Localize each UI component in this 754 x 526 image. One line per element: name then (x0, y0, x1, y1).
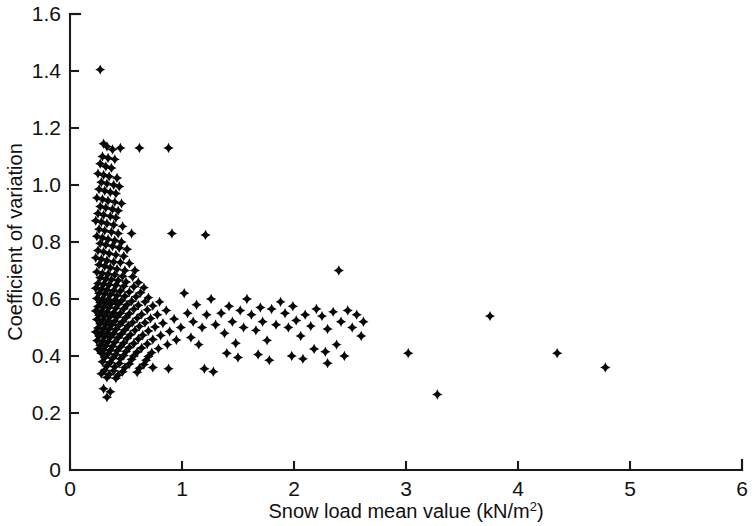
data-point (108, 220, 118, 230)
data-point (296, 331, 306, 341)
data-point (264, 355, 274, 365)
y-tick-label: 1.2 (32, 116, 61, 139)
data-point (322, 358, 332, 368)
y-tick-label: 0 (49, 458, 61, 481)
data-point (169, 314, 179, 324)
data-point (280, 308, 290, 318)
data-point (238, 322, 248, 332)
data-point (130, 265, 140, 275)
data-point (104, 171, 114, 181)
data-point (233, 352, 243, 362)
y-tick-label: 1.6 (32, 2, 61, 25)
data-point (199, 364, 209, 374)
y-tick-label: 0.6 (32, 287, 61, 310)
data-point (358, 317, 368, 327)
data-point (271, 319, 281, 329)
data-point (275, 297, 285, 307)
data-point (182, 308, 192, 318)
data-point (201, 309, 211, 319)
data-point (283, 322, 293, 332)
y-tick-label: 1.0 (32, 173, 61, 196)
data-point (222, 348, 232, 358)
data-point (162, 339, 172, 349)
data-point (347, 322, 357, 332)
data-point (552, 348, 562, 358)
data-point (311, 304, 321, 314)
data-point (343, 305, 353, 315)
data-point (128, 272, 138, 282)
data-point (167, 228, 177, 238)
data-points-layer (91, 64, 611, 402)
data-point (309, 344, 319, 354)
data-point (403, 348, 413, 358)
data-point (103, 153, 113, 163)
x-tick-label: 6 (736, 477, 748, 500)
data-point (242, 294, 252, 304)
data-point (161, 305, 171, 315)
data-point (235, 305, 245, 315)
data-point (163, 143, 173, 153)
data-point (191, 300, 201, 310)
data-point (186, 332, 196, 342)
scatter-plot-figure: 00.20.40.60.81.01.21.41.6 0123456 Snow l… (0, 0, 754, 526)
data-point (334, 265, 344, 275)
data-point (253, 349, 263, 359)
data-point (331, 339, 341, 349)
x-tick-label: 0 (64, 477, 76, 500)
data-point (115, 143, 125, 153)
data-point (206, 294, 216, 304)
data-point (102, 178, 112, 188)
data-point (600, 362, 610, 372)
y-tick-label: 0.4 (32, 344, 62, 367)
axis-frame (70, 14, 742, 470)
data-point (148, 362, 158, 372)
data-point (197, 322, 207, 332)
data-point (227, 317, 237, 327)
data-point (291, 315, 301, 325)
data-point (163, 364, 173, 374)
y-axis-ticks: 00.20.40.60.81.01.21.41.6 (32, 2, 79, 481)
data-point (179, 288, 189, 298)
x-tick-label: 5 (624, 477, 636, 500)
data-point (124, 258, 134, 268)
data-point (98, 210, 108, 220)
data-point (110, 197, 120, 207)
data-point (336, 317, 346, 327)
data-point (257, 317, 267, 327)
data-point (176, 322, 186, 332)
data-point (255, 302, 265, 312)
data-point (219, 328, 229, 338)
data-point (306, 321, 316, 331)
y-tick-label: 0.2 (32, 401, 61, 424)
data-point (262, 335, 272, 345)
data-point (298, 354, 308, 364)
data-point (266, 304, 276, 314)
data-point (200, 230, 210, 240)
data-point (117, 221, 127, 231)
data-point (432, 389, 442, 399)
x-axis-title: Snow load mean value (kN/m2) (268, 499, 543, 522)
data-point (356, 331, 366, 341)
data-point (208, 366, 218, 376)
data-point (216, 308, 226, 318)
chart-canvas: 00.20.40.60.81.01.21.41.6 0123456 Snow l… (0, 0, 754, 526)
y-tick-label: 1.4 (32, 59, 62, 82)
x-tick-label: 3 (400, 477, 412, 500)
data-point (110, 154, 120, 164)
data-point (100, 225, 110, 235)
data-point (126, 228, 136, 238)
data-point (317, 311, 327, 321)
x-axis-ticks: 0123456 (64, 461, 748, 500)
data-point (101, 203, 111, 213)
data-point (320, 347, 330, 357)
data-point (300, 309, 310, 319)
data-point (95, 64, 105, 74)
y-axis-title: Coefficient of variation (4, 143, 26, 341)
data-point (210, 319, 220, 329)
data-point (134, 143, 144, 153)
data-point (224, 301, 234, 311)
data-point (171, 335, 181, 345)
x-tick-label: 4 (512, 477, 524, 500)
data-point (111, 213, 121, 223)
data-point (106, 163, 116, 173)
